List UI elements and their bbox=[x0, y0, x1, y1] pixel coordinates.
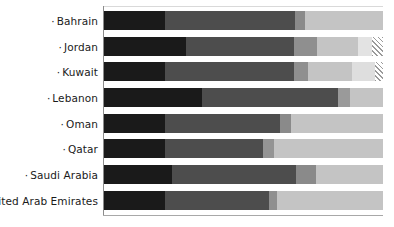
bar-segment bbox=[350, 88, 383, 107]
category-label: ·Jordan bbox=[59, 34, 98, 60]
bar-segment bbox=[104, 114, 165, 133]
stacked-bar bbox=[104, 114, 383, 133]
category-label: ·Oman bbox=[61, 111, 98, 137]
bar-row: ·Lebanon bbox=[0, 85, 394, 111]
category-label: ·Bahrain bbox=[51, 8, 98, 34]
bar-segment bbox=[172, 165, 296, 184]
bar-segment bbox=[308, 62, 353, 81]
bar-segment bbox=[165, 139, 263, 158]
plot-area: ·Bahrain·Jordan·Kuwait·Lebanon·Oman·Qata… bbox=[0, 0, 394, 227]
bar-segment bbox=[202, 88, 339, 107]
bar-segment bbox=[104, 62, 165, 81]
bar-segment bbox=[358, 37, 372, 56]
category-label-text: Oman bbox=[66, 118, 98, 130]
bar-segment bbox=[104, 11, 165, 30]
category-label-text: Saudi Arabia bbox=[30, 169, 98, 181]
bar-segment bbox=[165, 62, 293, 81]
stacked-bar bbox=[104, 37, 383, 56]
bar-row: ·Kuwait bbox=[0, 59, 394, 85]
stacked-bar bbox=[104, 88, 383, 107]
bar-row: ·Jordan bbox=[0, 34, 394, 60]
bar-segment bbox=[104, 165, 172, 184]
bar-segment bbox=[104, 37, 186, 56]
bar-segment bbox=[165, 11, 295, 30]
bar-segment bbox=[274, 139, 383, 158]
category-label: ·Kuwait bbox=[57, 59, 98, 85]
axis-tick-dot-icon: · bbox=[25, 169, 28, 181]
bar-segment bbox=[296, 165, 316, 184]
bar-segment bbox=[165, 191, 268, 210]
category-label: ·United Arab Emirates bbox=[0, 188, 98, 214]
stacked-bar bbox=[104, 62, 383, 81]
bar-segment bbox=[165, 114, 279, 133]
bar-segment bbox=[104, 191, 165, 210]
stacked-bar bbox=[104, 191, 383, 210]
stacked-bar bbox=[104, 11, 383, 30]
axis-tick-dot-icon: · bbox=[61, 118, 64, 130]
bar-segment bbox=[294, 62, 308, 81]
axis-tick-dot-icon: · bbox=[47, 92, 50, 104]
bar-row: ·United Arab Emirates bbox=[0, 188, 394, 214]
bar-segment bbox=[186, 37, 293, 56]
bar-segment bbox=[305, 11, 383, 30]
bar-row: ·Oman bbox=[0, 111, 394, 137]
bar-segment bbox=[295, 11, 305, 30]
bar-row: ·Qatar bbox=[0, 136, 394, 162]
category-label: ·Qatar bbox=[62, 136, 98, 162]
bar-segment bbox=[280, 114, 291, 133]
category-label-text: Qatar bbox=[68, 143, 98, 155]
axis-bottom-rule bbox=[103, 215, 383, 216]
bar-row: ·Bahrain bbox=[0, 8, 394, 34]
category-label-text: Bahrain bbox=[57, 15, 98, 27]
bar-segment bbox=[269, 191, 277, 210]
bar-segment bbox=[316, 165, 383, 184]
bar-row: ·Saudi Arabia bbox=[0, 162, 394, 188]
axis-tick-dot-icon: · bbox=[51, 15, 54, 27]
category-label: ·Lebanon bbox=[47, 85, 98, 111]
bar-segment bbox=[263, 139, 274, 158]
bar-segment bbox=[352, 62, 374, 81]
bar-segment bbox=[104, 88, 202, 107]
category-label-text: Jordan bbox=[64, 41, 98, 53]
bar-segment bbox=[277, 191, 383, 210]
stacked-bar bbox=[104, 139, 383, 158]
bar-segment bbox=[338, 88, 349, 107]
bar-segment bbox=[372, 37, 383, 56]
bar-segment bbox=[104, 139, 165, 158]
axis-tick-dot-icon: · bbox=[57, 66, 60, 78]
bar-segment bbox=[294, 37, 318, 56]
axis-top-rule bbox=[103, 6, 383, 7]
category-label-text: United Arab Emirates bbox=[0, 195, 98, 207]
bar-segment bbox=[375, 62, 383, 81]
category-label-text: Kuwait bbox=[62, 66, 98, 78]
axis-tick-dot-icon: · bbox=[59, 41, 62, 53]
category-label: ·Saudi Arabia bbox=[25, 162, 98, 188]
bar-segment bbox=[291, 114, 383, 133]
stacked-bar-chart: ·Bahrain·Jordan·Kuwait·Lebanon·Oman·Qata… bbox=[0, 0, 394, 227]
bar-segment bbox=[317, 37, 357, 56]
axis-tick-dot-icon: · bbox=[62, 143, 65, 155]
stacked-bar bbox=[104, 165, 383, 184]
category-label-text: Lebanon bbox=[52, 92, 98, 104]
